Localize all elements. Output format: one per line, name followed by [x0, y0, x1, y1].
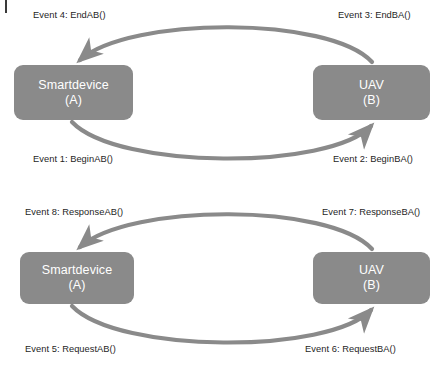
node-uav-b-bottom[interactable]: UAV (B) [313, 252, 430, 304]
edge2-bottom-arc [72, 306, 371, 343]
edge-label-event-3: Event 3: EndBA() [338, 10, 411, 21]
node-label-tag: (B) [363, 93, 380, 108]
diagram-canvas: Smartdevice (A) UAV (B) Event 4: EndAB()… [0, 0, 443, 366]
edge-label-event-1: Event 1: BeginAB() [33, 154, 113, 165]
node-label-name: Smartdevice [38, 78, 109, 93]
node-label-tag: (B) [363, 278, 380, 293]
edge-label-event-4: Event 4: EndAB() [33, 10, 106, 21]
node-smartdevice-a-bottom[interactable]: Smartdevice (A) [20, 252, 134, 304]
edge-label-event-2: Event 2: BeginBA() [333, 154, 413, 165]
node-label-name: UAV [359, 263, 384, 278]
edge-label-event-8: Event 8: ResponseAB() [25, 207, 123, 218]
node-label-tag: (A) [65, 93, 82, 108]
node-label-name: Smartdevice [42, 263, 113, 278]
node-label-name: UAV [359, 78, 384, 93]
edge-label-event-7: Event 7: ResponseBA() [322, 207, 420, 218]
node-smartdevice-a-top[interactable]: Smartdevice (A) [14, 65, 133, 120]
edge2-top-arc [80, 214, 372, 249]
edge-label-event-6: Event 6: RequestBA() [305, 344, 396, 355]
node-label-tag: (A) [69, 278, 86, 293]
edge-top-arc [80, 27, 372, 62]
edge-label-event-5: Event 5: RequestAB() [25, 344, 116, 355]
node-uav-b-top[interactable]: UAV (B) [313, 65, 430, 120]
connector-layer [0, 0, 443, 366]
edge-bottom-arc [72, 122, 371, 159]
